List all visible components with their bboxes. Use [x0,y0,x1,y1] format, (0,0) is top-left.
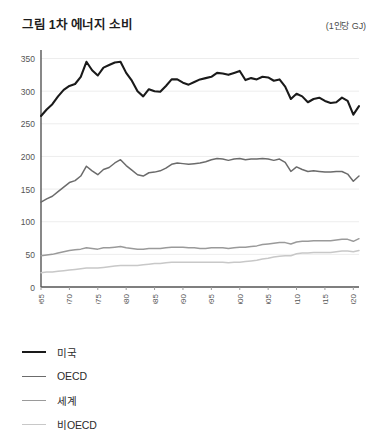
figure-header: 그림 1차 에너지 소비 (1인당 GJ) [0,14,380,36]
legend-swatch-icon [22,424,46,425]
x-axis-tick-label: 1980 [122,293,131,304]
x-axis-tick-label: 1990 [179,293,188,304]
chart-legend: 미국OECD세계비OECD [22,340,222,436]
unit-label: (1인당 GJ) [326,19,366,32]
figure-container: 그림 1차 에너지 소비 (1인당 GJ) 050100150200250300… [0,0,380,444]
x-axis-tick-label: 1985 [151,293,160,304]
x-axis-tick-label: 2015 [321,293,330,304]
y-axis-tick-label: 0 [30,283,35,293]
legend-label: OECD [57,370,87,382]
x-axis-tick-label: 2005 [264,293,273,304]
series-line-비OECD [41,250,359,272]
legend-item-2[interactable]: 세계 [22,388,222,412]
page-title: 그림 1차 에너지 소비 [22,14,133,33]
y-axis-tick-label: 150 [21,185,35,195]
x-axis-tick-label: 2020 [349,293,358,304]
legend-swatch-icon [22,376,46,377]
legend-label: 비OECD [57,417,97,432]
y-axis-tick-label: 250 [21,119,35,129]
legend-item-1[interactable]: OECD [22,364,222,388]
x-axis-tick-label: 2010 [293,293,302,304]
x-axis-tick-label: 2000 [236,293,245,304]
y-axis-tick-label: 200 [21,152,35,162]
legend-swatch-icon [22,351,46,353]
legend-label: 세계 [57,393,77,408]
legend-item-3[interactable]: 비OECD [22,412,222,436]
x-axis-tick-label: 1975 [94,293,103,304]
y-axis-tick-label: 300 [21,87,35,97]
y-axis-tick-label: 50 [26,250,36,260]
legend-item-0[interactable]: 미국 [22,340,222,364]
line-chart: 0501001502002503003501965197019751980198… [0,44,380,304]
legend-swatch-icon [22,400,46,401]
series-line-OECD [41,158,359,202]
x-axis-tick-label: 1970 [65,293,74,304]
chart-plot-area: 0501001502002503003501965197019751980198… [0,44,380,304]
y-axis-tick-label: 350 [21,54,35,64]
legend-label: 미국 [57,345,77,360]
y-axis-tick-label: 100 [21,217,35,227]
x-axis-tick-label: 1995 [207,293,216,304]
series-line-미국 [41,62,359,116]
x-axis-tick-label: 1965 [37,293,46,304]
